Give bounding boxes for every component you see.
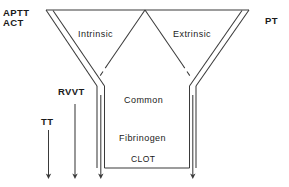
intrinsic-outer-left-diagonal <box>46 10 97 86</box>
extrinsic-label: Extrinsic <box>173 30 211 39</box>
tt-label: TT <box>41 117 53 127</box>
act-label: ACT <box>3 18 24 28</box>
extrinsic-left-diagonal <box>108 10 145 64</box>
diagram-canvas: APTT ACT Intrinsic Extrinsic PT RVVT TT … <box>0 0 289 187</box>
intrinsic-inner-left-diagonal <box>53 11 105 87</box>
extrinsic-left-diagonal-dashed <box>98 64 108 79</box>
fibrinogen-label: Fibrinogen <box>119 134 166 143</box>
extrinsic-inner-right-diagonal <box>190 11 243 87</box>
extrinsic-outer-right-diagonal <box>196 10 249 86</box>
intrinsic-label: Intrinsic <box>78 30 113 39</box>
common-label: Common <box>124 96 163 105</box>
pt-label: PT <box>265 16 278 26</box>
rvvt-label: RVVT <box>58 87 85 97</box>
clot-label: CLOT <box>131 155 155 164</box>
intrinsic-right-diagonal-dashed <box>182 64 192 79</box>
